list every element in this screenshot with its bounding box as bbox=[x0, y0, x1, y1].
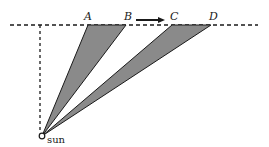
label-a: A bbox=[83, 10, 92, 23]
label-d: D bbox=[208, 10, 218, 23]
sun-icon bbox=[39, 133, 45, 139]
arrow-right-icon bbox=[136, 17, 165, 23]
label-c: C bbox=[170, 10, 179, 23]
sun-label: sun bbox=[47, 134, 66, 145]
sun-shadow-diagram: A B C D sun bbox=[0, 0, 269, 147]
label-b: B bbox=[123, 10, 132, 23]
